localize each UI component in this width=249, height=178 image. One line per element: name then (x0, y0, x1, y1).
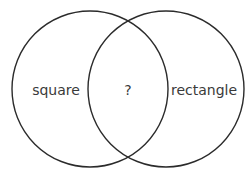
right-set-label: rectangle (171, 82, 237, 98)
left-set-label: square (32, 82, 80, 98)
intersection-label: ? (124, 82, 131, 98)
venn-diagram: square ? rectangle (0, 0, 249, 178)
